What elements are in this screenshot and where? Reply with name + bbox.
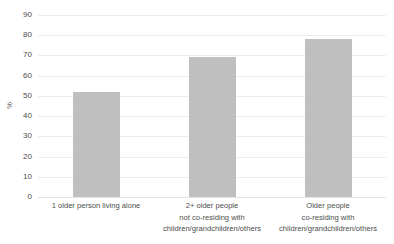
category-label-line: children/grandchildren/others [146, 223, 278, 235]
plot-area: 9080706050403020100 [38, 15, 386, 197]
y-axis-title: % [5, 99, 14, 113]
y-tick-label-30: 30 [23, 132, 32, 140]
category-label: 2+ older peoplenot co-residing withchild… [146, 200, 278, 235]
category-label: 1 older person living alone [30, 200, 162, 212]
gridline-0: 0 [38, 197, 386, 198]
bar [305, 39, 352, 197]
category-label-line: children/grandchildren/others [262, 223, 394, 235]
bar [73, 92, 120, 197]
category-label-line: not co-residing with [146, 212, 278, 224]
bars [38, 15, 386, 197]
bar [189, 57, 236, 197]
category-label: Older peopleco-residing withchildren/gra… [262, 200, 394, 235]
y-tick-label-90: 90 [23, 11, 32, 19]
y-tick-label-20: 20 [23, 153, 32, 161]
x-axis-category-labels: 1 older person living alone2+ older peop… [38, 200, 386, 244]
y-tick-label-70: 70 [23, 51, 32, 59]
y-tick-label-60: 60 [23, 72, 32, 80]
y-tick-label-40: 40 [23, 112, 32, 120]
y-tick-label-10: 10 [23, 173, 32, 181]
bar-chart: % 9080706050403020100 1 older person liv… [0, 0, 394, 244]
category-label-line: 1 older person living alone [30, 200, 162, 212]
category-label-line: co-residing with [262, 212, 394, 224]
y-tick-label-80: 80 [23, 31, 32, 39]
category-label-line: Older people [262, 200, 394, 212]
category-label-line: 2+ older people [146, 200, 278, 212]
y-tick-label-50: 50 [23, 92, 32, 100]
